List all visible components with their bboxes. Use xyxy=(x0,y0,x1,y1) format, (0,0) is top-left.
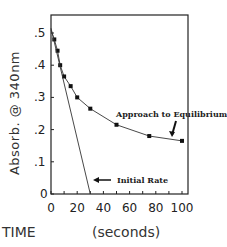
annotation-initial-rate: Initial Rate xyxy=(117,175,168,185)
x-tick-label: 60 xyxy=(122,201,137,215)
series-line xyxy=(51,28,90,194)
x-axis-label: TIME xyxy=(1,224,36,240)
x-tick-label: 0 xyxy=(47,201,55,215)
data-point xyxy=(75,95,79,99)
x-axis-units: (seconds) xyxy=(92,224,160,240)
x-tick-label: 20 xyxy=(70,201,85,215)
x-tick-label: 80 xyxy=(148,201,163,215)
arrow-head-equilibrium xyxy=(169,131,175,137)
y-tick-label: .1 xyxy=(34,155,45,169)
data-point xyxy=(115,123,119,127)
x-tick-label: 100 xyxy=(171,201,194,215)
arrow-head-initial-rate xyxy=(93,177,99,183)
data-point xyxy=(180,139,184,143)
y-axis-label: Absorb. @ 340nm xyxy=(7,51,22,175)
plot-frame xyxy=(51,15,188,194)
data-point xyxy=(69,84,73,88)
chart-canvas: 0.1.2.3.4.5 020406080100 Absorb. @ 340nm… xyxy=(0,0,227,247)
y-tick-label: .2 xyxy=(34,123,45,137)
y-tick-label: .3 xyxy=(34,90,45,104)
y-tick-labels: 0.1.2.3.4.5 xyxy=(34,26,48,201)
y-tick-label: .5 xyxy=(34,26,45,40)
x-tick-labels: 020406080100 xyxy=(47,201,193,215)
data-point xyxy=(147,134,151,138)
data-point xyxy=(88,107,92,111)
x-tick-label: 40 xyxy=(96,201,111,215)
y-tick-label: 0 xyxy=(40,187,48,201)
y-tick-label: .4 xyxy=(34,58,45,72)
annotation-equilibrium: Approach to Equilibrium xyxy=(115,109,227,119)
